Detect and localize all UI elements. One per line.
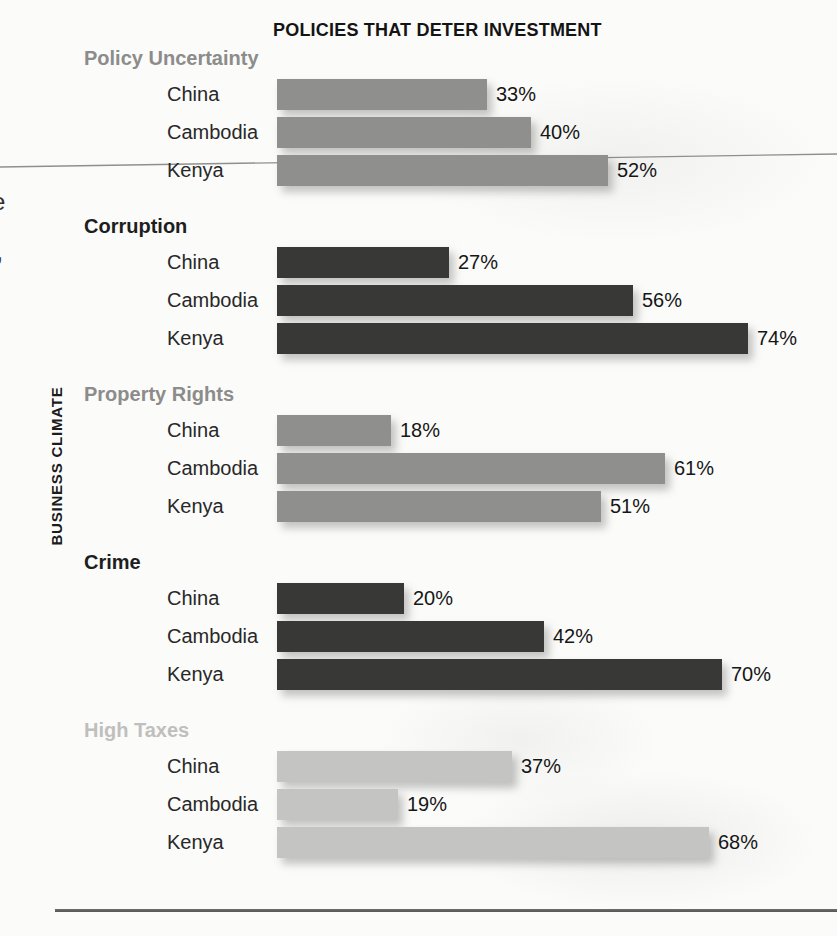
bar-row: Kenya70% [84,659,832,690]
bar-row: China33% [84,79,832,110]
bar [277,117,531,148]
group-label: Crime [84,550,832,574]
chart-group: High TaxesChina37%Cambodia19%Kenya68% [84,718,832,858]
bar-category-label: China [167,419,277,442]
bar [277,659,722,690]
figure-page: e , POLICIES THAT DETER INVESTMENT BUSIN… [0,0,837,936]
bar-category-label: Kenya [167,495,277,518]
bar [277,79,487,110]
bar-row: Kenya52% [84,155,832,186]
bar-category-label: Kenya [167,663,277,686]
bar [277,323,748,354]
bar [277,789,398,820]
bar-row: Cambodia40% [84,117,832,148]
bar-row: Kenya51% [84,491,832,522]
bar-value-label: 70% [731,663,771,686]
bar-category-label: China [167,251,277,274]
group-label: Policy Uncertainty [84,46,832,70]
bar-value-label: 68% [718,831,758,854]
bar [277,155,608,186]
bar-row: Cambodia56% [84,285,832,316]
bar [277,453,665,484]
bar-value-label: 56% [642,289,682,312]
bar-category-label: Kenya [167,831,277,854]
bar-category-label: Cambodia [167,289,277,312]
bar-category-label: Cambodia [167,121,277,144]
bar-row: China37% [84,751,832,782]
bar-category-label: China [167,83,277,106]
y-axis-label: BUSINESS CLIMATE [48,373,66,559]
chart-title: POLICIES THAT DETER INVESTMENT [273,20,602,41]
bar-value-label: 74% [757,327,797,350]
bar-row: Kenya74% [84,323,832,354]
bar-value-label: 51% [610,495,650,518]
bar-value-label: 33% [496,83,536,106]
bar [277,285,633,316]
bottom-rule [55,909,837,912]
bar-row: China20% [84,583,832,614]
bar-value-label: 52% [617,159,657,182]
bar-row: Cambodia19% [84,789,832,820]
bar-category-label: Cambodia [167,625,277,648]
chart-group: Property RightsChina18%Cambodia61%Kenya5… [84,382,832,522]
bar-category-label: Cambodia [167,457,277,480]
bar-category-label: Kenya [167,159,277,182]
chart-groups: Policy UncertaintyChina33%Cambodia40%Ken… [84,46,832,886]
bar-value-label: 20% [413,587,453,610]
bar-row: Kenya68% [84,827,832,858]
bar-category-label: Cambodia [167,793,277,816]
bar-row: China27% [84,247,832,278]
page-edge-text-artifact: , [0,236,3,267]
bar-value-label: 27% [458,251,498,274]
bar [277,621,544,652]
bar [277,583,404,614]
group-label: High Taxes [84,718,832,742]
bar [277,751,512,782]
bar-value-label: 61% [674,457,714,480]
bar-value-label: 37% [521,755,561,778]
bar [277,415,391,446]
bar-category-label: Kenya [167,327,277,350]
page-edge-text-artifact: e [0,188,5,216]
group-label: Property Rights [84,382,832,406]
bar-category-label: China [167,755,277,778]
bar-row: Cambodia61% [84,453,832,484]
chart-group: Policy UncertaintyChina33%Cambodia40%Ken… [84,46,832,186]
bar-row: China18% [84,415,832,446]
bar-category-label: China [167,587,277,610]
bar-value-label: 40% [540,121,580,144]
bar-row: Cambodia42% [84,621,832,652]
bar-value-label: 18% [400,419,440,442]
bar-value-label: 42% [553,625,593,648]
chart-group: CrimeChina20%Cambodia42%Kenya70% [84,550,832,690]
bar [277,827,709,858]
bar [277,491,601,522]
bar-value-label: 19% [407,793,447,816]
chart-group: CorruptionChina27%Cambodia56%Kenya74% [84,214,832,354]
bar [277,247,449,278]
group-label: Corruption [84,214,832,238]
